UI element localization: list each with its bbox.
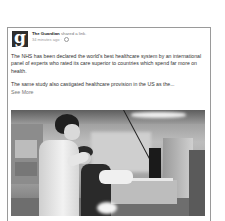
post-paragraph-1: The NHS has been declared the world's be…	[11, 53, 207, 75]
photo-nurse-face	[64, 124, 80, 140]
post-paragraph-2: The same study also castigated healthcar…	[11, 81, 207, 88]
photo-monitor	[149, 148, 161, 180]
link-preview-image[interactable]	[11, 110, 205, 216]
photo-nurse-body	[39, 140, 79, 216]
guardian-logo-avatar[interactable]: g	[12, 31, 28, 47]
photo-shelf	[15, 140, 37, 158]
see-more-link[interactable]: See More	[11, 89, 207, 96]
globe-icon	[64, 37, 69, 42]
post-meta: The Guardian shared a link. 34 minutes a…	[32, 31, 86, 43]
photo-shelf	[15, 162, 37, 176]
post-body: The NHS has been declared the world's be…	[11, 53, 207, 96]
logo-letter: g	[14, 31, 26, 47]
photo-motion-blur	[97, 202, 117, 214]
photo-blanket	[99, 170, 133, 184]
meta-separator: ·	[60, 37, 61, 42]
post-timestamp[interactable]: 34 minutes ago	[32, 37, 59, 42]
post-action-text: shared a link.	[61, 31, 87, 36]
photo-medical-machine	[189, 150, 205, 216]
photo-ceiling-light	[131, 112, 186, 118]
author-link[interactable]: The Guardian	[32, 31, 60, 36]
post-card: g The Guardian shared a link. 34 minutes…	[7, 27, 211, 221]
post-header: g The Guardian shared a link. 34 minutes…	[11, 30, 201, 47]
